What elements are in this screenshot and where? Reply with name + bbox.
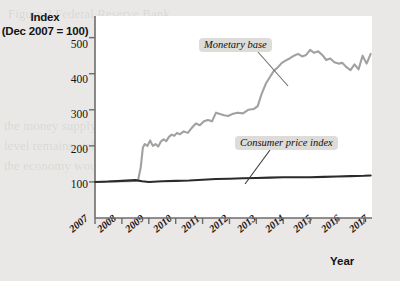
series-line-monetary-base	[95, 50, 371, 182]
y-tick-marks	[89, 38, 95, 182]
series-label-consumer-price-index: Consumer price index	[235, 136, 338, 150]
series-line-consumer-price-index	[95, 175, 371, 181]
x-tick-marks	[95, 218, 364, 224]
series-label-monetary-base: Monetary base	[199, 38, 272, 52]
leader-line-monetary-base	[258, 52, 288, 86]
figure-monetary-base-vs-cpi: Figure 2 Federal Reserve Bank the money …	[0, 0, 400, 281]
